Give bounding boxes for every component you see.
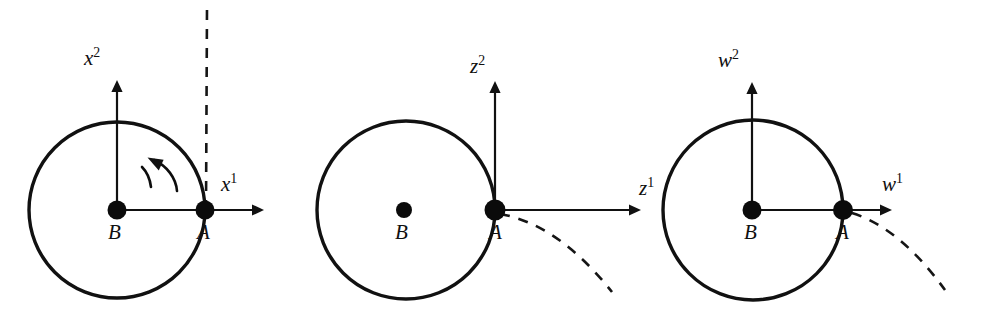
axis-label-w1: w1 bbox=[882, 172, 903, 195]
rotation-arrowhead bbox=[148, 158, 164, 171]
vertical-axis-arrowhead bbox=[746, 82, 757, 94]
rotation-arc-tick bbox=[142, 167, 151, 187]
figure-root: x2 x1 B A z2 z1 B A w2 w1 B A bbox=[0, 0, 991, 313]
point-label-b: B bbox=[744, 222, 757, 243]
point-b-dot bbox=[396, 202, 412, 218]
horizontal-axis-arrowhead bbox=[880, 204, 892, 215]
point-label-a: A bbox=[197, 222, 210, 243]
panel-x-frame bbox=[29, 8, 264, 298]
panel-z-frame bbox=[317, 81, 641, 299]
horizontal-axis-arrowhead bbox=[252, 204, 264, 215]
axis-label-z2: z2 bbox=[470, 54, 485, 77]
point-label-b: B bbox=[395, 222, 408, 243]
point-a-dot bbox=[196, 201, 215, 220]
point-label-b: B bbox=[108, 222, 121, 243]
point-b-dot bbox=[108, 201, 127, 220]
axis-label-w2: w2 bbox=[718, 48, 739, 71]
point-a-dot bbox=[833, 200, 853, 220]
vertical-dashed-guide bbox=[206, 8, 207, 210]
point-label-a: A bbox=[489, 222, 502, 243]
trajectory-dashed-curve bbox=[852, 213, 945, 290]
point-a-dot bbox=[485, 200, 506, 221]
axis-label-x1: x1 bbox=[221, 172, 237, 195]
figure-canvas bbox=[0, 0, 991, 313]
vertical-axis-arrowhead bbox=[489, 81, 500, 93]
trajectory-dashed-curve bbox=[500, 214, 612, 292]
point-label-a: A bbox=[836, 222, 849, 243]
horizontal-axis-arrowhead bbox=[629, 204, 641, 215]
vertical-axis-arrowhead bbox=[111, 80, 122, 92]
axis-label-z1: z1 bbox=[639, 176, 654, 199]
axis-label-x2: x2 bbox=[84, 46, 100, 69]
point-b-dot bbox=[743, 201, 762, 220]
